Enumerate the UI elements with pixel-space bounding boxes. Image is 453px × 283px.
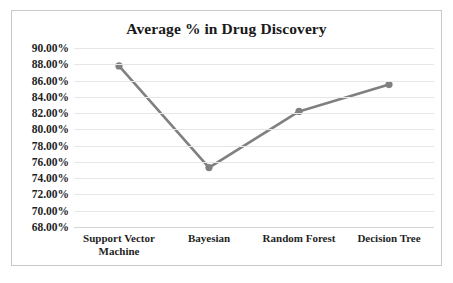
y-axis-tick-label: 72.00% bbox=[32, 188, 69, 200]
y-axis-tick-label: 82.00% bbox=[32, 107, 69, 119]
y-axis-tick-label: 86.00% bbox=[32, 75, 69, 87]
y-axis-tick-label: 88.00% bbox=[32, 58, 69, 70]
gridline bbox=[74, 97, 434, 98]
y-axis-tick-label: 80.00% bbox=[32, 123, 69, 135]
data-point-marker bbox=[205, 164, 212, 171]
gridline bbox=[74, 129, 434, 130]
gridline bbox=[74, 64, 434, 65]
gridline bbox=[74, 227, 434, 228]
y-axis-tick-label: 76.00% bbox=[32, 156, 69, 168]
y-axis-tick-label: 74.00% bbox=[32, 172, 69, 184]
y-axis-tick-label: 90.00% bbox=[32, 42, 69, 54]
series-markers bbox=[115, 62, 392, 171]
x-axis-tick-label: Decision Tree bbox=[329, 232, 449, 245]
gridline bbox=[74, 113, 434, 114]
x-axis: Support VectorMachineBayesianRandom Fore… bbox=[74, 232, 434, 266]
y-axis: 90.00%88.00%86.00%84.00%82.00%80.00%78.0… bbox=[12, 48, 69, 227]
plot-area bbox=[74, 48, 434, 227]
y-axis-tick-label: 78.00% bbox=[32, 140, 69, 152]
gridline bbox=[74, 178, 434, 179]
x-axis-tick-label-line: Decision Tree bbox=[329, 232, 449, 245]
y-axis-tick-label: 70.00% bbox=[32, 205, 69, 217]
x-axis-tick-label-line: Machine bbox=[59, 245, 179, 258]
gridline bbox=[74, 146, 434, 147]
gridline bbox=[74, 162, 434, 163]
gridline bbox=[74, 48, 434, 49]
data-point-marker bbox=[385, 81, 392, 88]
gridline bbox=[74, 194, 434, 195]
gridline bbox=[74, 211, 434, 212]
y-axis-tick-label: 84.00% bbox=[32, 91, 69, 103]
line-series bbox=[74, 48, 434, 227]
chart-title: Average % in Drug Discovery bbox=[12, 20, 441, 38]
gridline bbox=[74, 81, 434, 82]
chart-container: Average % in Drug Discovery 90.00%88.00%… bbox=[11, 10, 442, 266]
